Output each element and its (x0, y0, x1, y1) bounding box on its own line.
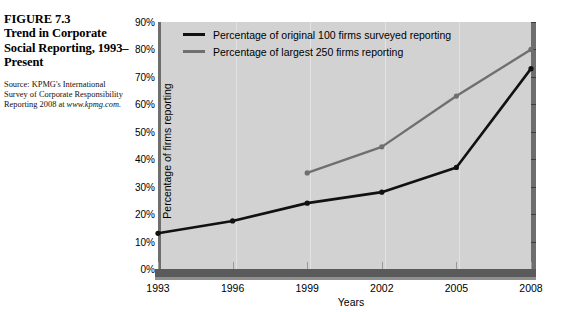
y-axis-tick-label: 80% (119, 44, 155, 55)
x-axis-tick-label: 1999 (277, 282, 337, 294)
figure-source: Source: KPMG's International Survey of C… (4, 80, 130, 111)
y-axis-tick-label: 0% (119, 264, 155, 275)
y-axis-tick-label: 50% (119, 126, 155, 137)
y-axis-tick-label: 30% (119, 181, 155, 192)
y-axis-tick-label: 10% (119, 236, 155, 247)
x-axis-bar (155, 269, 536, 277)
x-axis-tick-label: 2002 (352, 282, 412, 294)
y-axis-tick-label: 70% (119, 71, 155, 82)
series-data-point (528, 47, 533, 52)
x-axis-tick-label: 1993 (128, 282, 188, 294)
series-data-point (454, 165, 459, 170)
legend-item: Percentage of original 100 firms surveye… (183, 26, 451, 43)
source-url: www.kpmg.com. (67, 100, 122, 109)
x-axis-tick-label: 2005 (426, 282, 486, 294)
x-axis-bar-shadow (155, 277, 536, 280)
y-axis-tick-label: 60% (119, 99, 155, 110)
legend-swatch-series-1 (183, 33, 205, 36)
x-axis-tick-label: 1996 (203, 282, 263, 294)
legend-label-series-1: Percentage of original 100 firms surveye… (213, 29, 451, 41)
chart-legend: Percentage of original 100 firms surveye… (183, 26, 451, 60)
series-data-point (379, 190, 384, 195)
series-data-point (454, 94, 459, 99)
series-line (158, 69, 531, 234)
chart-figure: 0%10%20%30%40%50%60%70%80%90% 1993199619… (135, 0, 567, 312)
series-data-point (528, 66, 533, 71)
x-axis-tick-label: 2008 (501, 282, 561, 294)
y-axis-tick-label: 20% (119, 209, 155, 220)
series-data-point (155, 231, 160, 236)
legend-item: Percentage of largest 250 firms reportin… (183, 43, 451, 60)
legend-swatch-series-2 (183, 50, 205, 53)
y-axis-tick-labels: 0%10%20%30%40%50%60%70%80%90% (115, 22, 155, 269)
y-axis-tick-label: 40% (119, 154, 155, 165)
legend-label-series-2: Percentage of largest 250 firms reportin… (213, 46, 403, 58)
x-axis-title: Years (135, 296, 567, 308)
series-data-point (305, 201, 310, 206)
series-data-point (305, 170, 310, 175)
y-axis-tick-label: 90% (119, 17, 155, 28)
series-data-point (379, 144, 384, 149)
series-data-point (230, 218, 235, 223)
